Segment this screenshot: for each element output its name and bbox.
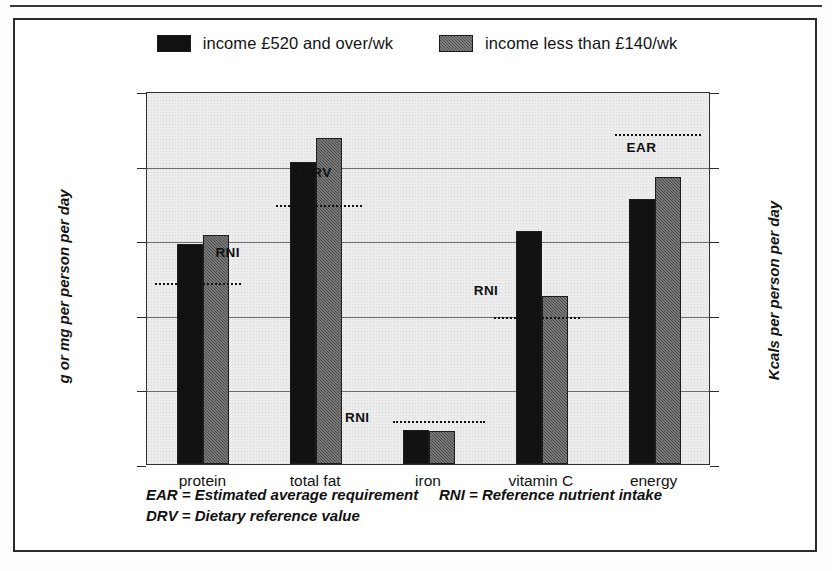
y-axis-right-tick xyxy=(710,168,719,169)
bar xyxy=(203,235,229,464)
y-axis-right-tick xyxy=(710,93,719,94)
reference-line-label: RNI xyxy=(345,410,369,425)
y-axis-left-tick xyxy=(137,93,146,94)
y-axis-left-tick xyxy=(137,466,146,467)
y-axis-left-tick xyxy=(137,242,146,243)
reference-line-label: RNI xyxy=(215,245,239,260)
bar-group xyxy=(516,93,568,464)
bar xyxy=(429,431,455,464)
reference-line xyxy=(494,317,580,319)
bar xyxy=(403,430,429,464)
chart-legend: income £520 and over/wk income less than… xyxy=(15,34,819,53)
plot-area: 0020500401,000601,500802,0001002,500RNID… xyxy=(146,92,710,465)
reference-line xyxy=(615,134,701,136)
y-axis-right-tick xyxy=(710,391,719,392)
reference-line-label: EAR xyxy=(627,140,657,155)
reference-line xyxy=(155,283,241,285)
y-axis-left-tick xyxy=(137,317,146,318)
y-axis-right-tick xyxy=(710,466,719,467)
bar xyxy=(290,162,316,464)
y-axis-left-title: g or mg per person per day xyxy=(55,177,72,397)
bar xyxy=(542,296,568,464)
reference-line xyxy=(393,421,485,423)
legend-entry-high-income: income £520 and over/wk xyxy=(157,34,393,53)
bar-group xyxy=(290,93,342,464)
figure-page: income £520 and over/wk income less than… xyxy=(0,0,832,571)
bar xyxy=(629,199,655,464)
y-axis-right-tick xyxy=(710,317,719,318)
bar xyxy=(655,177,681,464)
legend-entry-low-income: income less than £140/wk xyxy=(439,34,677,53)
y-axis-right-title: Kcals per person per day xyxy=(765,181,782,401)
footnote-drv: DRV = Dietary reference value xyxy=(146,507,360,524)
legend-swatch-gray xyxy=(439,35,473,52)
legend-label-high-income: income £520 and over/wk xyxy=(203,34,393,53)
reference-line-label: RNI xyxy=(474,283,498,298)
y-axis-right-tick xyxy=(710,242,719,243)
bar xyxy=(177,244,203,464)
bar-group xyxy=(403,93,455,464)
figure-frame: income £520 and over/wk income less than… xyxy=(13,18,817,552)
footnote-ear: EAR = Estimated average requirement xyxy=(146,486,418,503)
page-top-rule xyxy=(10,5,822,7)
legend-swatch-black xyxy=(157,35,191,52)
legend-label-low-income: income less than £140/wk xyxy=(485,34,677,53)
bar xyxy=(316,138,342,464)
reference-line xyxy=(276,205,362,207)
bar-group xyxy=(177,93,229,464)
reference-line-label: DRV xyxy=(302,165,331,180)
footnote-rni: RNI = Reference nutrient intake xyxy=(439,486,662,503)
y-axis-left-tick xyxy=(137,391,146,392)
bar xyxy=(516,231,542,464)
y-axis-left-tick xyxy=(137,168,146,169)
